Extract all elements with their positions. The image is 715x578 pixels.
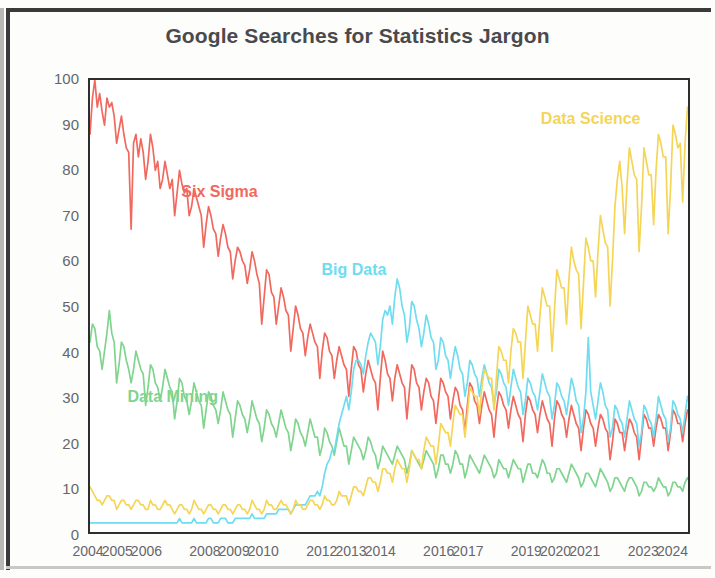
x-tick-label: 2005 — [102, 543, 133, 559]
y-tick-label: 60 — [62, 252, 79, 269]
page-edge-outer — [0, 8, 4, 570]
y-tick-label: 100 — [54, 70, 79, 87]
y-tick-label: 20 — [62, 434, 79, 451]
x-tick-label: 2012 — [306, 543, 337, 559]
x-tick-label: 2023 — [628, 543, 659, 559]
series-label-data-science: Data Science — [541, 110, 641, 128]
series-lines — [90, 80, 688, 532]
series-label-six-sigma: Six Sigma — [181, 183, 257, 201]
y-tick-label: 40 — [62, 343, 79, 360]
y-tick-label: 70 — [62, 206, 79, 223]
x-tick-label: 2016 — [423, 543, 454, 559]
y-tick-label: 10 — [62, 480, 79, 497]
x-tick-label: 2013 — [335, 543, 366, 559]
x-tick-label: 2014 — [365, 543, 396, 559]
plot-area — [88, 78, 690, 534]
x-tick-label: 2019 — [511, 543, 542, 559]
x-tick-label: 2009 — [219, 543, 250, 559]
page-edge-left — [6, 8, 10, 570]
page-edge-top — [6, 8, 711, 12]
y-tick-label: 30 — [62, 389, 79, 406]
x-tick-label: 2006 — [131, 543, 162, 559]
x-tick-label: 2010 — [248, 543, 279, 559]
x-tick-label: 2020 — [540, 543, 571, 559]
series-label-data-mining: Data Mining — [127, 388, 218, 406]
y-tick-label: 0 — [71, 526, 79, 543]
series-label-big-data: Big Data — [321, 261, 386, 279]
y-tick-label: 90 — [62, 115, 79, 132]
chart-title: Google Searches for Statistics Jargon — [0, 24, 715, 48]
figure-frame: Google Searches for Statistics Jargon Es… — [0, 0, 715, 578]
x-tick-label: 2004 — [72, 543, 103, 559]
x-tick-label: 2017 — [452, 543, 483, 559]
plot-wrapper: Estimated Number of Searches in U.S. 010… — [88, 78, 690, 534]
y-tick-label: 80 — [62, 161, 79, 178]
x-tick-label: 2021 — [569, 543, 600, 559]
y-tick-label: 50 — [62, 298, 79, 315]
x-tick-label: 2008 — [189, 543, 220, 559]
x-tick-label: 2024 — [657, 543, 688, 559]
page-edge-bottom — [6, 566, 711, 569]
